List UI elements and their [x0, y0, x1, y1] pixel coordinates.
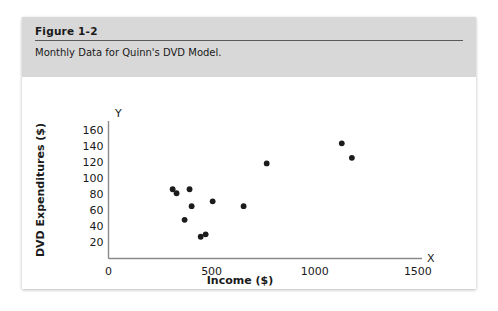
figure-header-divider [35, 40, 463, 41]
y-tick-label: 20 [90, 236, 104, 249]
y-tick-label: 40 [90, 220, 104, 233]
data-point [210, 198, 216, 204]
data-point [182, 217, 188, 223]
data-point-group [170, 140, 355, 239]
data-point [339, 140, 345, 146]
plot-canvas: 20406080100120140160 050010001500 Y X DV… [22, 77, 476, 289]
y-tick-label: 160 [83, 124, 104, 137]
x-tick-label: 1500 [404, 265, 432, 278]
data-point [189, 203, 195, 209]
data-point [174, 190, 180, 196]
data-point [349, 155, 355, 161]
x-axis-letter: X [427, 252, 435, 265]
y-tick-label: 100 [83, 172, 104, 185]
data-point [198, 234, 204, 240]
data-point [264, 161, 270, 167]
figure-number-label: Figure 1-2 [35, 25, 98, 37]
y-tick-label: 120 [83, 156, 104, 169]
data-point [241, 203, 247, 209]
y-tick-label: 60 [90, 204, 104, 217]
axes-group [109, 121, 423, 259]
figure-card: Figure 1-2 Monthly Data for Quinn's DVD … [22, 17, 476, 289]
x-tick-label: 1000 [301, 265, 329, 278]
y-tick-label: 80 [90, 188, 104, 201]
data-point [187, 186, 193, 192]
scatter-plot: 20406080100120140160 050010001500 Y X DV… [22, 77, 476, 289]
x-tick-label: 0 [105, 265, 112, 278]
data-point [203, 231, 209, 237]
y-axis-title: DVD Expenditures ($) [34, 123, 47, 257]
y-axis-letter: Y [114, 107, 122, 120]
x-axis-title: Income ($) [207, 274, 273, 287]
figure-header-band: Figure 1-2 Monthly Data for Quinn's DVD … [22, 17, 476, 77]
y-tick-label: 140 [83, 140, 104, 153]
figure-caption: Monthly Data for Quinn's DVD Model. [35, 47, 221, 58]
y-tick-label-group: 20406080100120140160 [83, 124, 104, 250]
